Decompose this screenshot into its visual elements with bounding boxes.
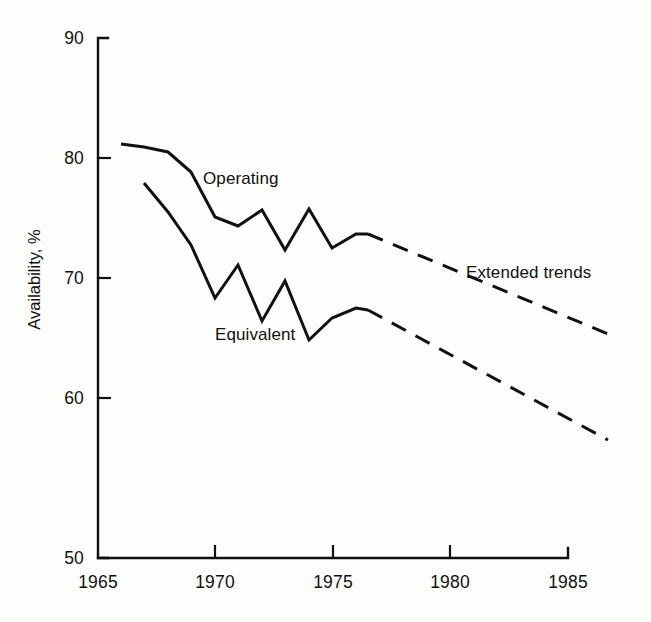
series-label-equivalent: Equivalent [215,325,295,345]
series-equivalent-dashed [368,310,608,440]
y-axis-line [98,38,108,558]
chart-figure: Availability, % 90 80 70 60 50 1965 1970… [0,0,651,622]
series-label-operating: Operating [203,169,279,189]
y-tick-label-80: 80 [38,148,84,169]
series-operating-solid [121,144,368,250]
y-tick-label-60: 60 [38,388,84,409]
series-operating-dashed [368,234,608,334]
x-tick-label-1965: 1965 [63,572,133,593]
x-tick-label-1980: 1980 [415,572,485,593]
series-equivalent-solid [144,183,368,340]
x-tick-label-1970: 1970 [180,572,250,593]
y-tick-label-50: 50 [38,548,84,569]
y-tick-label-90: 90 [38,28,84,49]
x-tick-label-1975: 1975 [298,572,368,593]
chart-plot-svg [0,0,651,622]
series-label-extended-trends: Extended trends [466,263,591,283]
y-tick-label-70: 70 [38,268,84,289]
x-tick-label-1985: 1985 [533,572,603,593]
